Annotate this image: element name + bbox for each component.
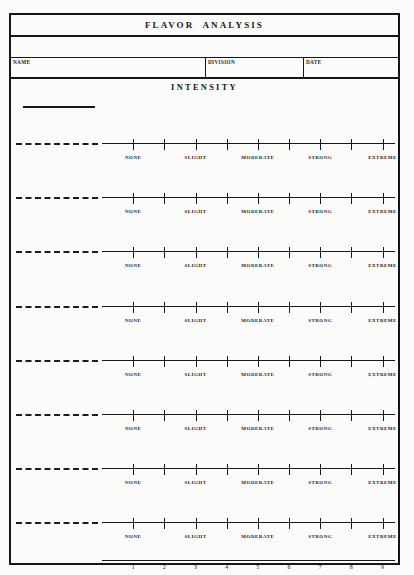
attribute-write-in-line[interactable] <box>16 360 98 362</box>
scale-row[interactable]: NONESLIGHTMODERATESTRONGEXTREME <box>11 187 398 213</box>
scale-row[interactable]: NONESLIGHTMODERATESTRONGEXTREME <box>11 350 398 376</box>
axis-tick <box>320 139 321 150</box>
axis-tick-label: EXTREME <box>368 318 397 323</box>
axis-tick-label: EXTREME <box>368 372 397 377</box>
scale-row[interactable]: NONESLIGHTMODERATESTRONGEXTREME <box>11 241 398 267</box>
axis-tick-label: MODERATE <box>241 209 274 214</box>
identification-row: NAME DIVISION DATE <box>11 58 398 79</box>
axis-tick-label: STRONG <box>308 155 332 160</box>
axis-tick <box>227 356 228 367</box>
scale-row[interactable]: NONESLIGHTMODERATESTRONGEXTREME <box>11 296 398 322</box>
axis-tick <box>320 356 321 367</box>
scale-row[interactable]: NONESLIGHTMODERATESTRONGEXTREME <box>11 458 398 484</box>
date-field[interactable]: DATE <box>303 58 398 77</box>
name-field[interactable]: NAME <box>11 58 205 77</box>
axis-tick <box>227 464 228 475</box>
numeric-axis-label: 4 <box>225 564 228 570</box>
axis-tick <box>289 193 290 204</box>
axis-tick <box>351 356 352 367</box>
axis-tick <box>258 518 259 529</box>
axis-tick <box>320 193 321 204</box>
axis-tick <box>196 193 197 204</box>
intensity-axis[interactable]: NONESLIGHTMODERATESTRONGEXTREME <box>102 143 395 144</box>
axis-tick-label: NONE <box>125 209 141 214</box>
axis-tick-label: SLIGHT <box>184 426 206 431</box>
intensity-axis[interactable]: NONESLIGHTMODERATESTRONGEXTREME <box>102 468 395 469</box>
form-title-row: FLAVOR ANALYSIS <box>11 15 398 37</box>
axis-tick <box>383 193 384 204</box>
intensity-axis[interactable]: NONESLIGHTMODERATESTRONGEXTREME <box>102 360 395 361</box>
attribute-write-in-line[interactable] <box>16 414 98 416</box>
axis-tick <box>383 302 384 313</box>
axis-tick <box>351 247 352 258</box>
numeric-axis-label: 2 <box>163 564 166 570</box>
axis-tick <box>164 302 165 313</box>
axis-tick-label: STRONG <box>308 480 332 485</box>
scale-row[interactable]: NONESLIGHTMODERATESTRONGEXTREME <box>11 512 398 538</box>
form-frame: FLAVOR ANALYSIS NAME DIVISION DATE INTEN… <box>9 13 400 565</box>
numeric-axis-label: 7 <box>319 564 322 570</box>
axis-tick <box>383 518 384 529</box>
axis-tick-label: STRONG <box>308 209 332 214</box>
axis-tick <box>289 302 290 313</box>
axis-tick <box>133 518 134 529</box>
axis-tick <box>383 139 384 150</box>
numeric-axis-label: 9 <box>381 564 384 570</box>
axis-tick <box>289 247 290 258</box>
axis-tick-label: NONE <box>125 480 141 485</box>
axis-tick <box>227 518 228 529</box>
intensity-axis[interactable]: NONESLIGHTMODERATESTRONGEXTREME <box>102 414 395 415</box>
axis-tick <box>227 302 228 313</box>
attribute-write-in-line[interactable] <box>16 306 98 308</box>
axis-tick-label: STRONG <box>308 426 332 431</box>
axis-tick-label: SLIGHT <box>184 480 206 485</box>
intensity-axis[interactable]: NONESLIGHTMODERATESTRONGEXTREME <box>102 251 395 252</box>
axis-tick <box>227 139 228 150</box>
numeric-axis: 123456789 <box>102 560 395 561</box>
intensity-axis[interactable]: NONESLIGHTMODERATESTRONGEXTREME <box>102 306 395 307</box>
axis-tick <box>196 410 197 421</box>
axis-tick <box>289 464 290 475</box>
axis-tick <box>164 247 165 258</box>
axis-tick <box>164 193 165 204</box>
attribute-write-in-line[interactable] <box>16 468 98 470</box>
axis-tick <box>320 410 321 421</box>
axis-tick-label: NONE <box>125 318 141 323</box>
axis-tick <box>351 139 352 150</box>
axis-tick-label: EXTREME <box>368 534 397 539</box>
axis-tick <box>289 139 290 150</box>
attribute-write-in-line[interactable] <box>16 251 98 253</box>
page-title: FLAVOR ANALYSIS <box>145 20 264 30</box>
axis-tick <box>196 247 197 258</box>
axis-tick <box>133 356 134 367</box>
axis-tick <box>351 302 352 313</box>
axis-tick-label: NONE <box>125 534 141 539</box>
axis-tick <box>133 464 134 475</box>
intensity-axis[interactable]: NONESLIGHTMODERATESTRONGEXTREME <box>102 522 395 523</box>
axis-tick-label: SLIGHT <box>184 534 206 539</box>
numeric-axis-label: 3 <box>194 564 197 570</box>
attribute-write-in-line[interactable] <box>16 522 98 524</box>
axis-tick-label: EXTREME <box>368 480 397 485</box>
axis-tick <box>258 464 259 475</box>
axis-tick <box>196 139 197 150</box>
scale-row[interactable]: NONESLIGHTMODERATESTRONGEXTREME <box>11 133 398 159</box>
axis-tick <box>227 410 228 421</box>
date-field-label: DATE <box>306 59 321 65</box>
name-field-label: NAME <box>13 59 30 65</box>
scale-row[interactable]: NONESLIGHTMODERATESTRONGEXTREME <box>11 404 398 430</box>
axis-tick-label: NONE <box>125 426 141 431</box>
intensity-heading: INTENSITY <box>11 83 398 92</box>
axis-tick <box>258 139 259 150</box>
axis-tick-label: SLIGHT <box>184 372 206 377</box>
axis-tick-label: SLIGHT <box>184 209 206 214</box>
axis-tick-label: MODERATE <box>241 155 274 160</box>
attribute-write-in-line[interactable] <box>16 143 98 145</box>
axis-tick <box>164 356 165 367</box>
division-field[interactable]: DIVISION <box>205 58 303 77</box>
intensity-axis[interactable]: NONESLIGHTMODERATESTRONGEXTREME <box>102 197 395 198</box>
attribute-write-in-line[interactable] <box>16 197 98 199</box>
axis-tick <box>164 518 165 529</box>
axis-tick <box>196 356 197 367</box>
axis-tick-label: MODERATE <box>241 426 274 431</box>
